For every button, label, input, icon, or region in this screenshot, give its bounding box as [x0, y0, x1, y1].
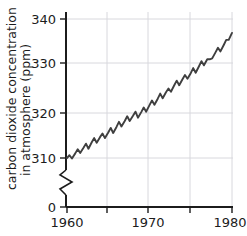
co2-line-chart: 340 330 320 310 0 1960 1970 1980 carbon … — [0, 0, 247, 236]
y-axis-title-line2: in atmosphere (ppm) — [18, 44, 33, 176]
chart-svg: 340 330 320 310 0 1960 1970 1980 carbon … — [0, 0, 247, 236]
x-tick-label-1960: 1960 — [50, 215, 83, 230]
y-tick-label-310: 310 — [31, 151, 56, 166]
y-axis-title-line1: carbon dioxide concentration — [4, 7, 19, 190]
plot-background — [66, 12, 233, 207]
y-tick-label-0: 0 — [48, 200, 56, 215]
y-tick-label-320: 320 — [31, 106, 56, 121]
x-tick-label-1970: 1970 — [131, 215, 164, 230]
y-tick-label-330: 330 — [31, 56, 56, 71]
x-tick-label-1980: 1980 — [213, 215, 246, 230]
y-tick-label-340: 340 — [31, 12, 56, 27]
y-axis-title: carbon dioxide concentration in atmosphe… — [4, 7, 33, 190]
